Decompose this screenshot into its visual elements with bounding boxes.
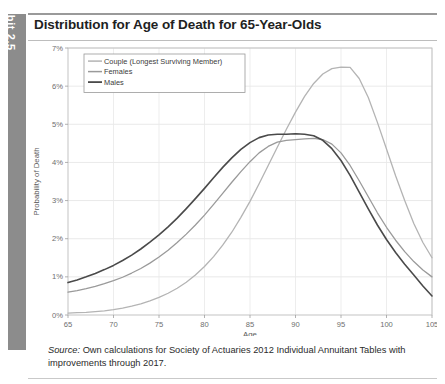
y-tick-label: 5% [52,120,63,129]
chart-legend: Couple (Longest Surviving Member)Females… [84,54,245,93]
x-tick-label: 100 [380,320,393,329]
legend-label-0: Couple (Longest Surviving Member) [104,57,222,66]
source-note: Source: Own calculations for Society of … [48,344,434,370]
x-axis-ticks: 65707580859095100105 [64,315,437,329]
y-tick-label: 7% [52,44,63,53]
y-tick-label: 6% [52,82,63,91]
x-tick-label: 80 [200,320,208,329]
legend-label-1: Females [104,67,133,76]
x-tick-label: 95 [337,320,345,329]
x-tick-label: 65 [64,320,72,329]
axis-titles: AgeProbability of Death [32,147,257,336]
y-tick-label: 0% [52,311,63,320]
footer-rule [28,378,437,379]
y-axis-title: Probability of Death [32,147,41,215]
exhibit-tab-label: Exhibit 2.5 [5,0,17,51]
y-tick-label: 2% [52,234,63,243]
header-rule-bottom [28,40,437,41]
exhibit-tab: Exhibit 2.5 [8,14,26,350]
x-tick-label: 90 [291,320,299,329]
x-tick-label: 105 [426,320,437,329]
exhibit-figure: Exhibit 2.5 Distribution for Age of Deat… [0,0,445,384]
x-tick-label: 75 [155,320,163,329]
y-tick-label: 4% [52,158,63,167]
distribution-line-chart: 0%1%2%3%4%5%6%7% 65707580859095100105 Ag… [28,44,437,336]
y-tick-label: 1% [52,272,63,281]
x-axis-title: Age [243,330,257,336]
y-tick-label: 3% [52,196,63,205]
page-title: Distribution for Age of Death for 65-Yea… [34,17,321,32]
source-note-prefix: Source: [48,345,80,355]
chart-region: 0%1%2%3%4%5%6%7% 65707580859095100105 Ag… [28,44,437,336]
x-tick-label: 70 [109,320,117,329]
header-rule-top [28,13,437,15]
x-tick-label: 85 [246,320,254,329]
y-axis-ticks: 0%1%2%3%4%5%6%7% [52,44,68,320]
source-note-text: Own calculations for Society of Actuarie… [48,345,405,368]
legend-label-2: Males [104,78,124,87]
